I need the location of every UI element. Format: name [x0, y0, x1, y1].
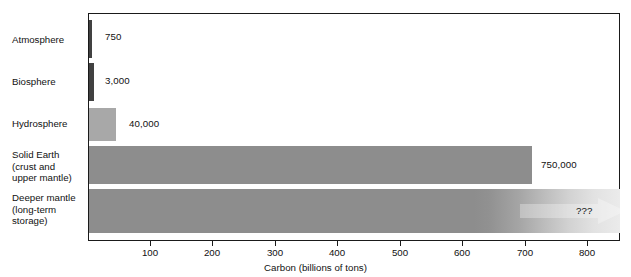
bar-biosphere: [89, 63, 94, 101]
value-label-atmosphere: 750: [105, 31, 121, 42]
value-label-solid-earth: 750,000: [541, 159, 577, 170]
category-label-hydrosphere: Hydrosphere: [12, 118, 92, 130]
bar-hydrosphere: [89, 108, 116, 141]
x-tick-100: [150, 241, 151, 246]
bar-deeper-mantle: [89, 189, 620, 233]
x-tick-label-400: 400: [329, 247, 345, 258]
x-tick-200: [212, 241, 213, 246]
x-tick-700: [525, 241, 526, 246]
value-label-biosphere: 3,000: [105, 75, 130, 86]
x-tick-500: [400, 241, 401, 246]
bar-atmosphere: [89, 20, 92, 58]
x-tick-400: [337, 241, 338, 246]
value-label-deeper-mantle: ???: [576, 205, 592, 216]
category-label-solid-earth: Solid Earth (crust and upper mantle): [12, 149, 92, 184]
fade-arrow-icon: [520, 198, 620, 224]
x-tick-label-500: 500: [392, 247, 408, 258]
x-tick-label-300: 300: [267, 247, 283, 258]
bar-solid-earth: [89, 146, 532, 184]
x-tick-label-700: 700: [517, 247, 533, 258]
x-tick-300: [275, 241, 276, 246]
category-label-biosphere: Biosphere: [12, 76, 92, 88]
x-tick-label-600: 600: [454, 247, 470, 258]
category-label-deeper-mantle: Deeper mantle (long-term storage): [12, 192, 92, 227]
x-tick-label-100: 100: [142, 247, 158, 258]
x-axis-title: Carbon (billions of tons): [0, 262, 631, 273]
x-tick-800: [587, 241, 588, 246]
plot-area: 750 3,000 40,000 750,000 ???: [88, 13, 620, 241]
value-label-hydrosphere: 40,000: [129, 118, 159, 129]
x-tick-600: [462, 241, 463, 246]
x-tick-label-800: 800: [579, 247, 595, 258]
x-tick-label-200: 200: [204, 247, 220, 258]
category-label-atmosphere: Atmosphere: [12, 34, 92, 46]
carbon-reservoir-bar-chart: Atmosphere Biosphere Hydrosphere Solid E…: [0, 0, 631, 277]
